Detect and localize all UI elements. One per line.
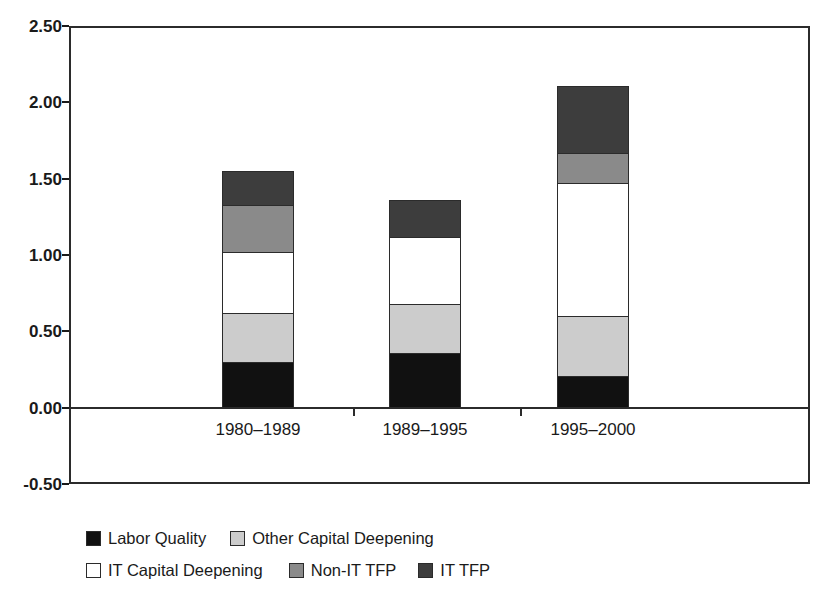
bar-stack[interactable] — [222, 171, 294, 408]
legend-label-it-tfp: IT TFP — [440, 562, 490, 579]
bar-segment[interactable] — [222, 205, 294, 252]
y-tick-label: 1.00 — [0, 247, 62, 264]
y-tick-label: 0.00 — [0, 399, 62, 416]
y-tick-mark — [62, 407, 69, 409]
bars-layer — [69, 26, 810, 484]
legend-item-other-capital-deepening: Other Capital Deepening — [230, 530, 434, 547]
bar-segment[interactable] — [389, 200, 461, 237]
y-tick-label: 2.50 — [0, 18, 62, 35]
x-tick-mark — [353, 408, 355, 416]
y-tick-mark — [62, 25, 69, 27]
y-axis-ticks: 2.502.001.501.000.500.00-0.50 — [0, 0, 62, 616]
legend-swatch-labor-quality — [86, 531, 101, 546]
bar-segment[interactable] — [557, 316, 629, 376]
legend-item-labor-quality: Labor Quality — [86, 530, 206, 547]
legend-label-it-capital-deepening: IT Capital Deepening — [108, 562, 263, 579]
bar-segment[interactable] — [222, 362, 294, 408]
legend-label-labor-quality: Labor Quality — [108, 530, 206, 547]
bar-segment[interactable] — [389, 304, 461, 353]
bar-segment[interactable] — [389, 237, 461, 304]
legend-label-non-it-tfp: Non-IT TFP — [311, 562, 397, 579]
bar-segment[interactable] — [222, 171, 294, 205]
y-tick-label: 2.00 — [0, 94, 62, 111]
legend-item-non-it-tfp: Non-IT TFP — [289, 562, 397, 579]
y-tick-mark — [62, 254, 69, 256]
bar-segment[interactable] — [557, 153, 629, 184]
legend-row-2: IT Capital Deepening Non-IT TFP IT TFP — [86, 554, 786, 586]
legend-label-other-capital-deepening: Other Capital Deepening — [252, 530, 434, 547]
legend-swatch-it-capital-deepening — [86, 563, 101, 578]
legend-item-it-tfp: IT TFP — [418, 562, 490, 579]
legend-swatch-non-it-tfp — [289, 563, 304, 578]
y-tick-mark — [62, 483, 69, 485]
legend-swatch-other-capital-deepening — [230, 531, 245, 546]
x-tick-mark — [520, 408, 522, 416]
y-tick-mark — [62, 101, 69, 103]
legend: Labor Quality Other Capital Deepening IT… — [86, 522, 786, 586]
x-axis-label: 1989–1995 — [345, 420, 505, 440]
legend-item-it-capital-deepening: IT Capital Deepening — [86, 562, 263, 579]
bar-segment[interactable] — [557, 376, 629, 408]
y-tick-label: -0.50 — [0, 476, 62, 493]
y-tick-label: 1.50 — [0, 170, 62, 187]
stacked-bar-chart: Annual Contribution (%) 2.502.001.501.00… — [0, 0, 830, 616]
bar-segment[interactable] — [557, 86, 629, 153]
bar-stack[interactable] — [557, 86, 629, 408]
y-tick-label: 0.50 — [0, 323, 62, 340]
x-axis-label: 1995–2000 — [513, 420, 673, 440]
bar-segment[interactable] — [389, 353, 461, 408]
bar-stack[interactable] — [389, 200, 461, 408]
bar-segment[interactable] — [222, 252, 294, 313]
y-tick-mark — [62, 178, 69, 180]
bar-segment[interactable] — [557, 183, 629, 316]
x-axis-label: 1980–1989 — [178, 420, 338, 440]
y-tick-mark — [62, 330, 69, 332]
legend-row-1: Labor Quality Other Capital Deepening — [86, 522, 786, 554]
legend-swatch-it-tfp — [418, 563, 433, 578]
bar-segment[interactable] — [222, 313, 294, 362]
